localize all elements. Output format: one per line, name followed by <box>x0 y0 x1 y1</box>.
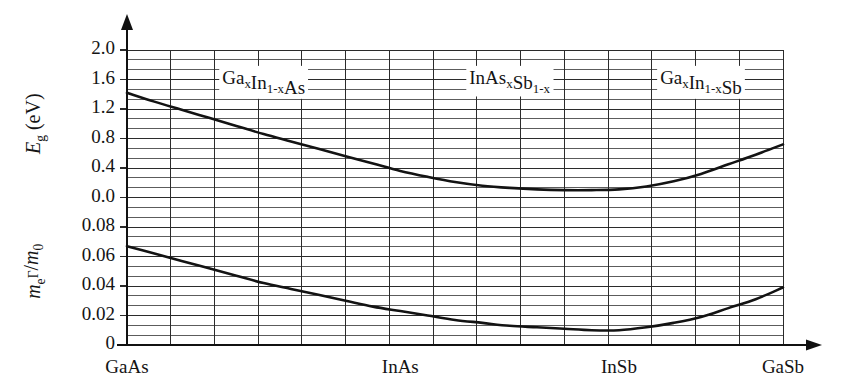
y-tick-label-bandgap: 1.6 <box>91 67 115 88</box>
x-tick-label: GaAs <box>105 356 148 377</box>
figure-container: GaxIn1-xAsInAsxSb1-xGaxIn1-xSb 2.01.61.2… <box>0 0 848 392</box>
x-tick-label: GaSb <box>762 356 804 377</box>
alloy-bandgap-effective-mass-chart: GaxIn1-xAsInAsxSb1-xGaxIn1-xSb 2.01.61.2… <box>0 0 848 392</box>
y-tick-label-effective-mass: 0.02 <box>82 303 115 324</box>
x-tick-label: InSb <box>601 356 637 377</box>
y-tick-label-effective-mass: 0 <box>106 332 116 353</box>
y-tick-label-effective-mass: 0.06 <box>82 244 115 265</box>
x-tick-label: InAs <box>382 356 419 377</box>
y-tick-label-bandgap: 0.0 <box>91 185 115 206</box>
y-tick-label-bandgap: 2.0 <box>91 37 115 58</box>
y-tick-label-bandgap: 0.4 <box>91 155 115 176</box>
y-tick-label-effective-mass: 0.08 <box>82 214 115 235</box>
y-tick-label-bandgap: 1.2 <box>91 96 115 117</box>
y-tick-label-effective-mass: 0.04 <box>82 273 116 294</box>
alloy-annotation-layer: GaxIn1-xAsInAsxSb1-xGaxIn1-xSb <box>219 66 745 99</box>
y-tick-label-bandgap: 0.8 <box>91 126 115 147</box>
